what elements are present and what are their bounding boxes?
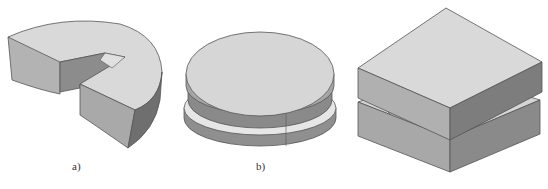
cut-cylinder-drawing (0, 0, 180, 189)
figure-b: b) (180, 0, 350, 189)
figure-label-b: b) (256, 160, 265, 172)
stacked-plates-drawing (350, 0, 548, 189)
figure-label-a: a) (72, 160, 81, 172)
figure-c (350, 0, 548, 189)
figure-a: a) (0, 0, 180, 189)
